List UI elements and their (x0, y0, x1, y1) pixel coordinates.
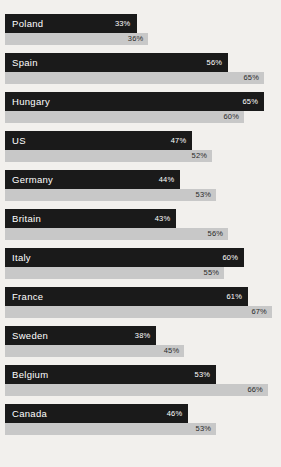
bar-track-primary: Germany44% (0, 170, 281, 189)
bar-secondary: 55% (5, 267, 224, 279)
bar-primary: France61% (5, 287, 248, 306)
chart-row: Germany44%53% (0, 170, 281, 209)
bar-primary: Poland33% (5, 14, 137, 33)
bar-track-primary: Poland33% (0, 14, 281, 33)
bar-track-secondary: 60% (0, 111, 281, 123)
value-label-secondary: 36% (128, 35, 144, 43)
bar-track-primary: Spain56% (0, 53, 281, 72)
chart-row: Spain56%65% (0, 53, 281, 92)
bar-secondary: 53% (5, 423, 216, 435)
value-label-primary: 46% (167, 410, 183, 418)
bar-secondary: 67% (5, 306, 272, 318)
bar-track-secondary: 67% (0, 306, 281, 318)
bar-track-secondary: 36% (0, 33, 281, 45)
value-label-primary: 47% (171, 137, 187, 145)
bar-primary: Spain56% (5, 53, 228, 72)
chart-row: Hungary65%60% (0, 92, 281, 131)
chart-row: Canada46%53% (0, 404, 281, 443)
category-label: France (12, 292, 43, 302)
bar-track-secondary: 55% (0, 267, 281, 279)
value-label-secondary: 55% (204, 269, 220, 277)
category-label: Spain (12, 58, 38, 68)
bar-track-primary: Hungary65% (0, 92, 281, 111)
chart-row: Britain43%56% (0, 209, 281, 248)
bar-secondary: 66% (5, 384, 268, 396)
bar-track-primary: Sweden38% (0, 326, 281, 345)
bar-secondary: 53% (5, 189, 216, 201)
value-label-secondary: 45% (164, 347, 180, 355)
value-label-secondary: 56% (208, 230, 224, 238)
bar-track-secondary: 53% (0, 189, 281, 201)
value-label-primary: 53% (195, 371, 211, 379)
bar-secondary: 56% (5, 228, 228, 240)
bar-chart: Poland33%36%Spain56%65%Hungary65%60%US47… (0, 0, 281, 467)
bar-track-primary: Belgium53% (0, 365, 281, 384)
category-label: Sweden (12, 331, 48, 341)
chart-row: Italy60%55% (0, 248, 281, 287)
bar-primary: Belgium53% (5, 365, 216, 384)
value-label-primary: 38% (135, 332, 151, 340)
value-label-secondary: 53% (196, 191, 212, 199)
category-label: Belgium (12, 370, 48, 380)
value-label-primary: 56% (207, 59, 223, 67)
bar-secondary: 60% (5, 111, 244, 123)
category-label: Hungary (12, 97, 50, 107)
bar-track-primary: US47% (0, 131, 281, 150)
bar-track-secondary: 56% (0, 228, 281, 240)
bar-primary: Sweden38% (5, 326, 156, 345)
bar-secondary: 36% (5, 33, 148, 45)
value-label-primary: 61% (226, 293, 242, 301)
value-label-primary: 43% (155, 215, 171, 223)
value-label-secondary: 53% (196, 425, 212, 433)
value-label-primary: 65% (242, 98, 258, 106)
bar-primary: Germany44% (5, 170, 180, 189)
value-label-primary: 60% (222, 254, 238, 262)
chart-row: France61%67% (0, 287, 281, 326)
value-label-secondary: 60% (223, 113, 239, 121)
bar-primary: Italy60% (5, 248, 244, 267)
chart-row: Sweden38%45% (0, 326, 281, 365)
category-label: Germany (12, 175, 53, 185)
bar-track-primary: France61% (0, 287, 281, 306)
category-label: US (12, 136, 26, 146)
value-label-secondary: 66% (247, 386, 263, 394)
bar-track-secondary: 52% (0, 150, 281, 162)
chart-row: US47%52% (0, 131, 281, 170)
bar-primary: Canada46% (5, 404, 188, 423)
bar-track-secondary: 66% (0, 384, 281, 396)
bar-track-secondary: 65% (0, 72, 281, 84)
bar-secondary: 52% (5, 150, 212, 162)
category-label: Britain (12, 214, 41, 224)
category-label: Italy (12, 253, 31, 263)
bar-track-secondary: 45% (0, 345, 281, 357)
value-label-primary: 33% (115, 20, 131, 28)
category-label: Poland (12, 19, 43, 29)
bar-primary: Britain43% (5, 209, 176, 228)
bar-track-primary: Italy60% (0, 248, 281, 267)
bar-track-secondary: 53% (0, 423, 281, 435)
bar-track-primary: Britain43% (0, 209, 281, 228)
chart-row: Poland33%36% (0, 14, 281, 53)
value-label-secondary: 52% (192, 152, 208, 160)
bar-primary: US47% (5, 131, 192, 150)
bar-track-primary: Canada46% (0, 404, 281, 423)
value-label-primary: 44% (159, 176, 175, 184)
bar-primary: Hungary65% (5, 92, 264, 111)
chart-row: Belgium53%66% (0, 365, 281, 404)
bar-secondary: 45% (5, 345, 184, 357)
bar-secondary: 65% (5, 72, 264, 84)
value-label-secondary: 65% (243, 74, 259, 82)
category-label: Canada (12, 409, 47, 419)
value-label-secondary: 67% (251, 308, 267, 316)
